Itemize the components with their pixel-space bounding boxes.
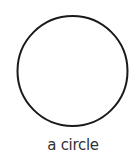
circle-shape <box>18 16 128 126</box>
figure-caption: a circle <box>0 136 140 154</box>
